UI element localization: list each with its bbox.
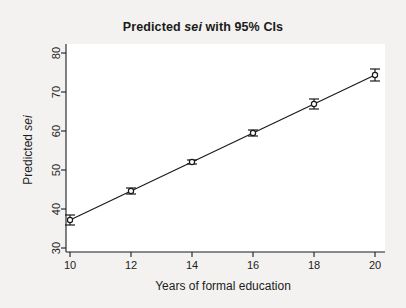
data-point-x12 bbox=[128, 188, 133, 193]
y-axis-title: Predicted sei bbox=[21, 115, 35, 185]
x-tick-label-12: 12 bbox=[125, 259, 137, 271]
plot-canvas: 30 40 50 60 70 80 10 12 14 16 18 20 Year… bbox=[0, 0, 406, 308]
y-tick-label-70: 70 bbox=[50, 86, 62, 98]
x-tick-label-20: 20 bbox=[369, 259, 381, 271]
data-point-x10 bbox=[67, 217, 72, 222]
chart-figure: Predicted sei with 95% CIs 30 40 50 60 7… bbox=[0, 0, 406, 308]
x-tick-marks bbox=[70, 252, 375, 257]
y-tick-label-80: 80 bbox=[50, 47, 62, 59]
y-tick-label-50: 50 bbox=[50, 164, 62, 176]
y-axis-title-prefix: Predicted bbox=[21, 131, 35, 185]
data-point-x14 bbox=[189, 159, 194, 164]
data-point-x20 bbox=[372, 72, 377, 77]
x-tick-label-14: 14 bbox=[186, 259, 198, 271]
x-tick-label-18: 18 bbox=[308, 259, 320, 271]
y-tick-label-40: 40 bbox=[50, 203, 62, 215]
x-axis-title: Years of formal education bbox=[155, 279, 291, 293]
x-tick-label-10: 10 bbox=[64, 259, 76, 271]
data-point-x16 bbox=[250, 130, 255, 135]
y-axis-title-italic-term: sei bbox=[21, 115, 35, 131]
y-tick-label-60: 60 bbox=[50, 125, 62, 137]
y-tick-label-30: 30 bbox=[50, 242, 62, 254]
x-tick-label-16: 16 bbox=[247, 259, 259, 271]
data-point-x18 bbox=[311, 101, 316, 106]
plot-panel bbox=[66, 44, 385, 252]
y-tick-marks bbox=[61, 53, 66, 248]
